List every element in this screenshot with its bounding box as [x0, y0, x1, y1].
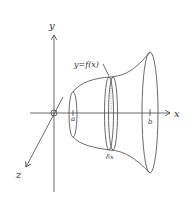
curve-label: y=f(x) — [73, 60, 99, 69]
upper-bound-label: b — [148, 118, 153, 126]
lower-bound-label: a — [71, 115, 75, 123]
slice-width-label: δx — [106, 153, 114, 161]
slice-ellipse-left — [105, 77, 114, 150]
solid-of-revolution-diagram: y x z y=f(x) a b δx — [0, 0, 195, 199]
upper-curve — [73, 52, 150, 92]
x-axis-label: x — [174, 108, 180, 119]
curve-label-leader — [103, 64, 109, 76]
z-axis-label: z — [15, 169, 22, 180]
y-axis-label: y — [48, 20, 55, 31]
slice-ellipse-right — [109, 77, 118, 150]
z-axis — [26, 97, 63, 167]
